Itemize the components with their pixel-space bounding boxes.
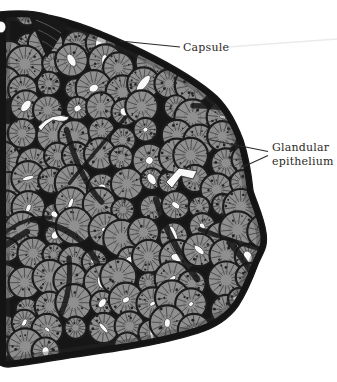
edge-notch <box>0 21 7 34</box>
capsule-label: Capsule <box>183 41 229 54</box>
scan-artifact-line <box>214 39 337 48</box>
tissue-section-drawing: Capsule Glandular epithelium <box>0 0 337 382</box>
glandular-epithelium-label-line2: epithelium <box>272 155 334 168</box>
histology-figure: Capsule Glandular epithelium <box>0 0 337 382</box>
glandular-tissue-interior <box>0 2 288 367</box>
glandular-epithelium-label-line1: Glandular <box>272 141 330 154</box>
